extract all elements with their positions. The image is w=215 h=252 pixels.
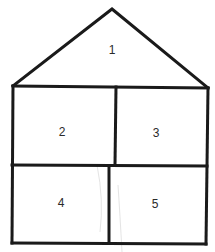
scan-artifact (118, 185, 122, 252)
upper-divider (115, 87, 116, 165)
region-label-upper-left: 2 (59, 125, 66, 139)
roof-base-line (13, 86, 208, 88)
house-diagram: 1 2 3 4 5 (0, 0, 215, 252)
scan-artifact (97, 165, 101, 232)
region-label-roof: 1 (109, 43, 116, 57)
region-label-lower-right: 5 (152, 197, 159, 211)
region-label-upper-right: 3 (153, 126, 160, 140)
region-label-lower-left: 4 (58, 196, 65, 210)
